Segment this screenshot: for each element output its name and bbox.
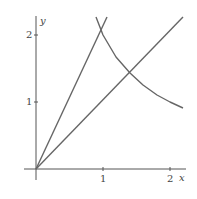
chart: 1 2 x 1 2 y [0, 0, 197, 199]
y-tick-label-2: 2 [26, 29, 32, 40]
x-tick-label-1: 1 [100, 173, 106, 184]
y-tick-label-1: 1 [26, 96, 32, 107]
series-y-x [36, 17, 183, 169]
x-tick-label-2: 2 [167, 173, 173, 184]
series-y-2x [36, 17, 107, 169]
x-axis-label: x [179, 172, 185, 183]
y-axis-label: y [39, 15, 46, 26]
